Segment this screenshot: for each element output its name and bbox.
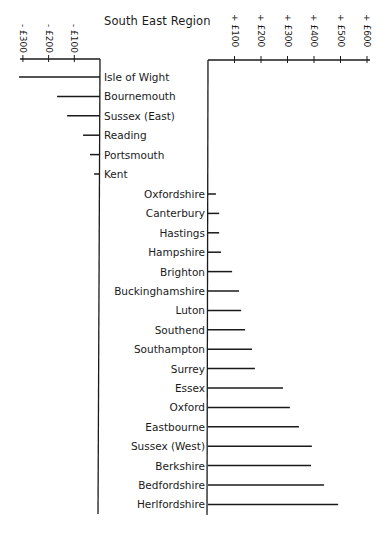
right-bar-label: Luton <box>175 304 205 316</box>
right-bar-label: Southampton <box>134 343 205 355</box>
left-bar-label: Reading <box>104 129 147 141</box>
right-axis-tick-label: + £600 <box>362 14 372 48</box>
left-axis-tick-label: - £200 <box>44 24 54 53</box>
chart-plot-area: - £300- £200- £100 + £100+ £200+ £300+ £… <box>0 0 392 535</box>
right-axis-tick-label: + £400 <box>309 14 319 48</box>
left-axis-tick-label: - £300 <box>18 24 28 53</box>
chart-title: South East Region <box>104 14 211 28</box>
left-axis-line <box>98 59 100 514</box>
right-bar-label: Herlfordshire <box>137 498 205 510</box>
right-bars: OxfordshireCanterburyHastingsHampshireBr… <box>114 188 338 510</box>
right-bar-label: Buckinghamshire <box>114 285 205 297</box>
left-bars: Isle of WightBournemouthSussex (East)Rea… <box>19 71 176 180</box>
right-bar-label: Canterbury <box>146 207 205 219</box>
right-bar-label: Southend <box>155 324 205 336</box>
right-bar-label: Hampshire <box>148 246 205 258</box>
right-axis: + £100+ £200+ £300+ £400+ £500+ £600 <box>207 14 372 515</box>
left-bar-label: Sussex (East) <box>104 110 175 122</box>
left-bar-label: Bournemouth <box>104 90 176 102</box>
right-axis-tick-label: + £100 <box>230 14 240 48</box>
right-axis-tick-label: + £500 <box>336 14 346 48</box>
right-bar-label: Hastings <box>159 227 205 239</box>
right-bar-label: Bedfordshire <box>138 479 205 491</box>
right-bar-label: Sussex (West) <box>131 440 205 452</box>
diverging-bar-chart: South East Region - £300- £200- £100 + £… <box>0 0 392 535</box>
right-bar-label: Oxfordshire <box>144 188 205 200</box>
right-axis-line <box>207 60 208 515</box>
left-bar-label: Isle of Wight <box>104 71 169 83</box>
left-axis: - £300- £200- £100 <box>18 24 100 514</box>
right-bar-label: Berkshire <box>155 460 205 472</box>
right-bar-label: Brighton <box>160 266 205 278</box>
right-bar-label: Eastbourne <box>145 421 205 433</box>
left-bar-label: Kent <box>104 168 128 180</box>
right-axis-tick-label: + £300 <box>283 14 293 48</box>
right-axis-tick-label: + £200 <box>256 14 266 48</box>
right-bar-label: Oxford <box>170 401 205 413</box>
left-bar-label: Portsmouth <box>104 149 164 161</box>
right-bar-label: Surrey <box>171 363 205 375</box>
right-bar-label: Essex <box>175 382 205 394</box>
left-axis-tick-label: - £100 <box>69 24 79 53</box>
